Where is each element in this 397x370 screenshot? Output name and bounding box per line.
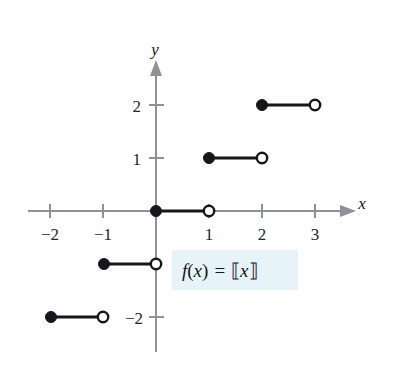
step-segment-two [257, 100, 321, 111]
open-endpoint-neg1 [151, 259, 161, 269]
step-segment-neg1 [99, 259, 162, 270]
y-tick-labels: 2 1 −2 [125, 97, 143, 328]
formula-line: f(x)=⟦x⟧ [182, 260, 258, 282]
x-tick-label-3: 3 [311, 225, 320, 244]
step-segment-neg2 [46, 312, 109, 323]
open-endpoint-neg2 [98, 312, 108, 322]
open-endpoint-zero [204, 206, 214, 216]
x-axis-label: x [357, 194, 366, 213]
closed-endpoint-two [257, 100, 268, 111]
x-tick-label-2: 2 [258, 225, 267, 244]
graph-canvas: −2 −1 1 2 3 2 1 −2 x y [0, 0, 397, 370]
formula-bracket-open: ⟦ [231, 260, 240, 281]
step-function-figure: −2 −1 1 2 3 2 1 −2 x y [0, 0, 397, 370]
closed-endpoint-zero [151, 206, 162, 217]
closed-endpoint-neg1 [99, 259, 110, 270]
formula-bracket-close: ⟧ [249, 260, 258, 281]
x-axis-arrowhead [340, 205, 356, 217]
step-segment-one [204, 153, 268, 164]
x-tick-labels: −2 −1 1 2 3 [41, 225, 319, 244]
x-tick-label-neg1: −1 [94, 225, 112, 244]
y-tick-label-neg2: −2 [125, 309, 143, 328]
y-tick-label-1: 1 [133, 150, 142, 169]
y-axis-arrowhead [150, 60, 162, 76]
x-tick-label-neg2: −2 [41, 225, 59, 244]
closed-endpoint-one [204, 153, 215, 164]
y-axis-label: y [149, 40, 159, 59]
open-endpoint-one [257, 153, 267, 163]
function-formula: f(x)=⟦x⟧ [182, 260, 258, 282]
closed-endpoint-neg2 [46, 312, 57, 323]
step-segment-zero [151, 206, 215, 217]
open-endpoint-two [310, 100, 320, 110]
formula-equals: = [214, 260, 225, 281]
formula-close-paren: ) [202, 260, 208, 282]
y-tick-label-2: 2 [133, 97, 142, 116]
x-tick-label-1: 1 [205, 225, 214, 244]
